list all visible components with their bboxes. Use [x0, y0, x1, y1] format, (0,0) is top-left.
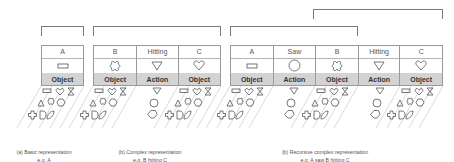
rectangle-icon	[246, 63, 258, 69]
column-type: Object	[231, 73, 273, 85]
column-action-hitting: Hitting Action	[358, 46, 400, 85]
column-object-a: A Object	[42, 46, 83, 85]
bracket-a	[41, 26, 84, 36]
triangle-down-icon	[151, 61, 163, 71]
column-type: Object	[42, 73, 83, 85]
column-action-saw: Saw Action	[273, 46, 316, 85]
rectangle-icon	[57, 63, 69, 69]
column-object-c: C Object	[178, 46, 220, 85]
bracket-c-inner	[230, 26, 358, 36]
bracket-c-outer	[313, 9, 443, 19]
triangle-down-icon	[373, 61, 385, 71]
column-type: Object	[400, 73, 442, 85]
diagram-c-box: A Object Saw Action B Object Hitting Act…	[230, 45, 443, 86]
column-type: Action	[359, 73, 400, 85]
candidate-shapes-layer	[0, 86, 454, 130]
circle-icon	[288, 59, 301, 72]
caption-example: e.g. A saw B hitting C	[265, 156, 385, 162]
caption-title: (b) Recursive complex representation	[265, 148, 385, 156]
column-object-b: B Object	[315, 46, 358, 85]
column-action-hitting: Hitting Action	[136, 46, 177, 85]
heart-icon	[415, 60, 427, 71]
heart-icon	[193, 60, 205, 71]
bracket-b	[93, 26, 221, 36]
caption-example: e.g. A	[4, 156, 84, 162]
column-object-c: C Object	[399, 46, 442, 85]
quatrefoil-icon	[331, 60, 343, 72]
column-type: Action	[274, 73, 316, 85]
column-type: Action	[137, 73, 177, 85]
diagram-b-box: B Object Hitting Action C Object	[93, 45, 221, 86]
caption-a: (a) Basic representation e.g. A	[4, 148, 84, 162]
column-type: Object	[94, 73, 136, 85]
caption-title: (a) Basic representation	[4, 148, 84, 156]
column-object-b: B Object	[94, 46, 136, 85]
caption-example: e.g. B hitting C	[100, 156, 200, 162]
caption-c: (b) Recursive complex representation e.g…	[265, 148, 385, 162]
column-object-a: A Object	[231, 46, 273, 85]
column-type: Object	[179, 73, 220, 85]
diagram-a-box: A Object	[41, 45, 84, 86]
caption-title: (b) Complex representation	[100, 148, 200, 156]
quatrefoil-icon	[109, 60, 121, 72]
column-type: Object	[316, 73, 358, 85]
caption-b: (b) Complex representation e.g. B hittin…	[100, 148, 200, 162]
